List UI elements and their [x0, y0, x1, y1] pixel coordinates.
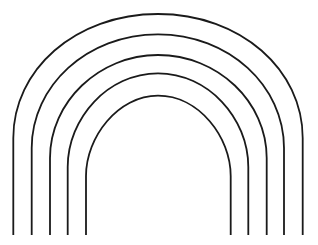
canvas-background [0, 0, 318, 245]
nested-arches-drawing [0, 0, 318, 245]
figure-canvas [0, 0, 318, 245]
